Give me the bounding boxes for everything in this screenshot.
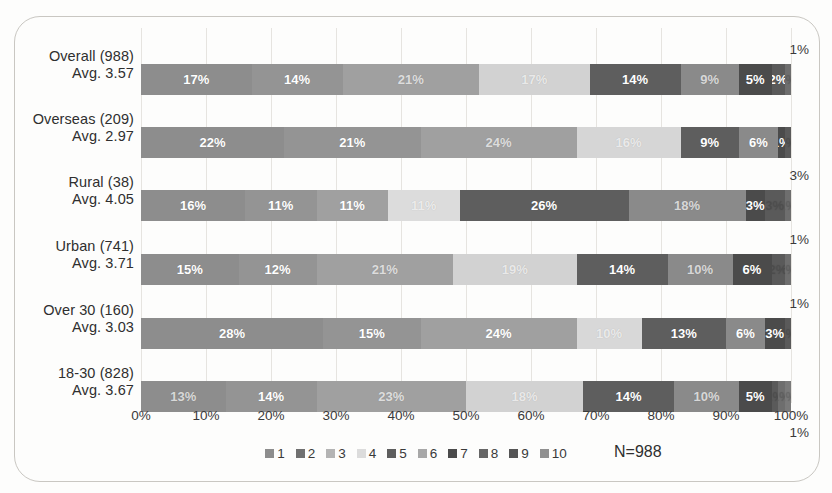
category-average: Avg. 4.05 [6, 191, 134, 208]
x-axis-tick-label: 80% [647, 408, 674, 423]
legend-item[interactable]: 10 [540, 446, 567, 461]
legend-item[interactable]: 4 [357, 446, 377, 461]
bar-segment[interactable]: 3% [765, 190, 785, 221]
x-axis-tick-label: 70% [582, 408, 609, 423]
bar-segment[interactable]: 17% [479, 64, 590, 95]
x-axis-tick-label: 20% [257, 408, 284, 423]
bar-segment[interactable]: 15% [323, 318, 421, 349]
bar-segment[interactable]: 3% [746, 190, 766, 221]
segment-callout-label: 1% [789, 42, 809, 57]
bar-segment[interactable]: 1% [785, 318, 792, 349]
bar-segment[interactable]: 24% [421, 318, 577, 349]
bar-segment[interactable]: 6% [726, 318, 765, 349]
stacked-bar[interactable]: 16%11%11%11%26%18%3%3%1% [141, 190, 791, 221]
bar-segment[interactable]: 2% [772, 64, 785, 95]
bar-segment[interactable]: 12% [239, 254, 317, 285]
category-label: Urban (741)Avg. 3.71 [6, 238, 134, 272]
bar-segment[interactable]: 24% [421, 127, 577, 158]
legend-swatch-icon [326, 449, 335, 458]
stacked-bar[interactable]: 17%14%21%17%14%9%5%2%1% [141, 64, 791, 95]
legend-label: 8 [491, 446, 499, 461]
legend-label: 4 [369, 446, 377, 461]
legend-swatch-icon [265, 449, 274, 458]
legend-label: 9 [521, 446, 529, 461]
bar-segment[interactable]: 26% [460, 190, 629, 221]
bar-segment[interactable]: 16% [577, 127, 681, 158]
bar-segment[interactable]: 6% [733, 254, 772, 285]
segment-callout-label: 3% [789, 168, 809, 183]
bar-segment[interactable]: 10% [577, 318, 642, 349]
bar-segment[interactable]: 19% [453, 254, 577, 285]
category-average: Avg. 3.67 [6, 382, 134, 399]
bar-segment[interactable]: 6% [739, 127, 778, 158]
segment-callout-label: 1% [789, 296, 809, 311]
bar-segment[interactable]: 15% [141, 254, 239, 285]
legend-item[interactable]: 3 [326, 446, 346, 461]
legend-item[interactable]: 2 [296, 446, 316, 461]
legend-item[interactable]: 8 [479, 446, 499, 461]
bar-segment[interactable]: 17% [141, 64, 252, 95]
bar-segment[interactable]: 2% [772, 254, 785, 285]
bar-segment[interactable]: 5% [739, 64, 772, 95]
x-axis-tick-label: 100% [774, 408, 809, 423]
category-label-column: Overall (988)Avg. 3.57Overseas (209)Avg.… [0, 28, 134, 403]
chart-legend: 12345678910 [0, 446, 832, 461]
bar-segment[interactable]: 9% [681, 64, 740, 95]
legend-label: 3 [338, 446, 346, 461]
category-name: Overall (988) [49, 48, 134, 64]
category-label: Overall (988)Avg. 3.57 [6, 48, 134, 82]
x-axis-tick-label: 30% [322, 408, 349, 423]
bar-segment[interactable]: 13% [642, 318, 727, 349]
bar-segment[interactable]: 1% [785, 64, 792, 95]
stacked-bar[interactable]: 15%12%21%19%14%10%6%2%1% [141, 254, 791, 285]
category-label: Over 30 (160)Avg. 3.03 [6, 302, 134, 336]
category-name: Overseas (209) [33, 111, 134, 127]
bar-segment[interactable]: 1% [785, 127, 792, 158]
bar-segment[interactable]: 11% [388, 190, 460, 221]
bar-segment[interactable]: 21% [284, 127, 421, 158]
bar-segment[interactable]: 11% [317, 190, 389, 221]
category-average: Avg. 3.71 [6, 255, 134, 272]
legend-swatch-icon [479, 449, 488, 458]
x-axis-tick-label: 60% [517, 408, 544, 423]
legend-label: 6 [430, 446, 438, 461]
bar-segment[interactable]: 14% [252, 64, 343, 95]
legend-swatch-icon [509, 449, 518, 458]
x-axis-tick-label: 40% [387, 408, 414, 423]
plot-area: 17%14%21%17%14%9%5%2%1%22%21%24%16%9%6%1… [141, 28, 791, 403]
legend-item[interactable]: 5 [387, 446, 407, 461]
category-label: Overseas (209)Avg. 2.97 [6, 111, 134, 145]
category-average: Avg. 2.97 [6, 128, 134, 145]
bar-segment[interactable]: 21% [317, 254, 454, 285]
segment-callout-label: 1% [789, 425, 809, 440]
legend-item[interactable]: 1 [265, 446, 285, 461]
gridline [791, 28, 792, 403]
bar-segment[interactable]: 18% [629, 190, 746, 221]
x-axis: 0%10%20%30%40%50%60%70%80%90%100% [141, 408, 791, 428]
category-name: Urban (741) [56, 238, 134, 254]
bar-segment[interactable]: 14% [577, 254, 668, 285]
category-average: Avg. 3.03 [6, 319, 134, 336]
category-label: Rural (38)Avg. 4.05 [6, 174, 134, 208]
bar-segment[interactable]: 16% [141, 190, 245, 221]
legend-swatch-icon [357, 449, 366, 458]
bar-segment[interactable]: 28% [141, 318, 323, 349]
stacked-bar[interactable]: 22%21%24%16%9%6%1%1% [141, 127, 791, 158]
bar-segment[interactable]: 11% [245, 190, 317, 221]
bar-segment[interactable]: 3% [765, 318, 785, 349]
bar-segment[interactable]: 22% [141, 127, 284, 158]
category-name: Over 30 (160) [43, 302, 134, 318]
stacked-bar[interactable]: 28%15%24%10%13%6%3%1% [141, 318, 791, 349]
legend-item[interactable]: 9 [509, 446, 529, 461]
bar-segment[interactable]: 21% [343, 64, 480, 95]
category-label: 18-30 (828)Avg. 3.67 [6, 365, 134, 399]
legend-label: 5 [399, 446, 407, 461]
legend-item[interactable]: 7 [448, 446, 468, 461]
legend-item[interactable]: 6 [418, 446, 438, 461]
bar-segment[interactable]: 9% [681, 127, 740, 158]
bar-segment[interactable]: 14% [590, 64, 681, 95]
bar-segment[interactable]: 10% [668, 254, 733, 285]
bar-segment[interactable]: 1% [785, 254, 792, 285]
legend-label: 7 [460, 446, 468, 461]
bar-segment[interactable]: 1% [785, 190, 792, 221]
